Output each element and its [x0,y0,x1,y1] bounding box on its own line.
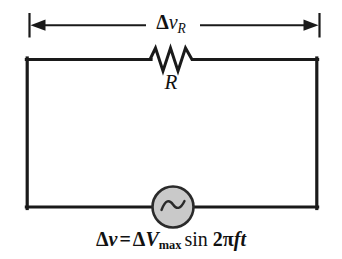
equation-lhs-delta: Δ [96,228,109,250]
delta-symbol: Δ [156,11,169,33]
resistor-zigzag-icon [150,48,196,71]
circuit-diagram-figure: ΔvR R Δv=ΔVmaxsin 2πft [0,0,342,259]
equals-sign: = [117,228,132,250]
equation-rhs-subscript: max [159,238,182,252]
ac-source-circle [153,187,194,228]
sine-function-name: sin [181,228,207,250]
ac-source-symbol [153,187,194,228]
resistor-symbol [150,48,196,71]
voltage-subscript: R [178,21,186,36]
pi-symbol: π [223,228,234,250]
equation-rhs-variable: V [145,228,158,250]
equation-coefficient: 2 [213,228,223,250]
time-variable: t [240,228,246,250]
circuit-schematic-svg [0,0,342,259]
voltage-drop-label: ΔvR [0,12,342,35]
source-voltage-equation: Δv=ΔVmaxsin 2πft [0,229,342,252]
voltage-variable: v [169,11,178,33]
resistor-label: R [0,72,342,93]
equation-rhs-delta: Δ [133,228,146,250]
